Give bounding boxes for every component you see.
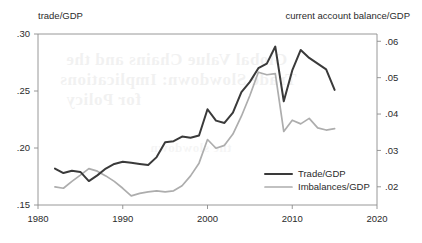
y-axis-right-ticks: .02.03.04.05.06	[377, 36, 398, 193]
x-tick-label: 1990	[112, 213, 133, 224]
y-right-tick-label: .05	[385, 72, 398, 83]
series-line-imbalances-gdp	[55, 72, 335, 196]
y-axis-left-ticks: .15.20.25.30	[17, 28, 38, 210]
chart-plot: 19801990200020102020 .15.20.25.30 .02.03…	[0, 0, 422, 243]
chart-legend: Trade/GDPImbalances/GDP	[265, 168, 370, 192]
x-tick-label: 2000	[197, 213, 218, 224]
x-axis-ticks: 19801990200020102020	[27, 205, 387, 224]
y-right-tick-label: .02	[385, 181, 398, 192]
y-left-tick-label: .20	[17, 142, 30, 153]
legend-label: Imbalances/GDP	[298, 181, 370, 192]
y-right-tick-label: .03	[385, 145, 398, 156]
y-left-tick-label: .15	[17, 199, 30, 210]
chart-figure: Global Value Chains and the Trade Slowdo…	[0, 0, 422, 243]
x-tick-label: 1980	[27, 213, 48, 224]
y-right-tick-label: .04	[385, 108, 398, 119]
series-line-trade-gdp	[55, 47, 335, 182]
legend-label: Trade/GDP	[298, 168, 346, 179]
x-tick-label: 2020	[366, 213, 387, 224]
y-left-tick-label: .30	[17, 28, 30, 39]
y-right-tick-label: .06	[385, 36, 398, 47]
x-tick-label: 2010	[282, 213, 303, 224]
y-left-tick-label: .25	[17, 85, 30, 96]
